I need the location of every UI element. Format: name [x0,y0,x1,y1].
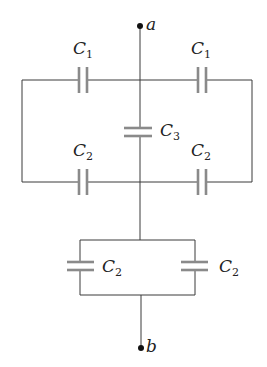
capacitor-c2-lower-right [181,262,208,270]
capacitor-c1-right [198,67,206,93]
terminal-a-label: a [146,16,156,33]
capacitor-c3 [124,128,152,136]
capacitor-c2-upper-left [79,169,87,195]
label-c2-upper-left: C2 [73,142,93,162]
label-c3: C3 [160,122,180,142]
capacitor-c1-left [79,67,87,93]
capacitor-c2-upper-right [198,169,206,195]
terminal-b-label: b [146,338,157,355]
label-c2-lower-left: C2 [102,258,122,278]
terminal-a-dot [137,23,143,29]
circuit-diagram [0,0,267,367]
terminal-b-dot [138,345,144,351]
capacitor-c2-lower-left [67,262,94,270]
label-c2-upper-right: C2 [191,142,211,162]
label-c2-lower-right: C2 [219,258,239,278]
label-c1-right: C1 [191,40,211,60]
label-c1-left: C1 [73,40,93,60]
